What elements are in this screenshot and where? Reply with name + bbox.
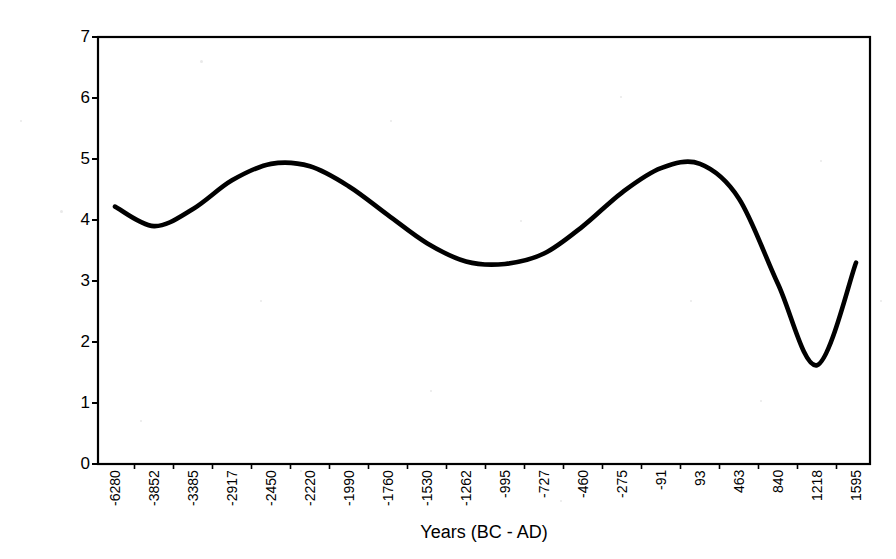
x-tick-label: -1990 [340,470,358,528]
x-tick-label: -275 [613,470,631,528]
plot-area-svg [0,0,896,559]
x-tick-label: -2220 [301,470,319,528]
x-axis-title: Years (BC - AD) [98,522,870,543]
x-tick-label: -91 [652,470,670,528]
x-tick-label: -2917 [223,470,241,528]
x-tick-label: -727 [535,470,553,528]
x-tick-label: 463 [730,470,748,528]
x-tick-label: -2450 [262,470,280,528]
x-tick-label: -1760 [379,470,397,528]
data-series-line [115,162,856,366]
plot-frame [98,37,870,464]
x-tick-label: -3385 [184,470,202,528]
x-tick-label: -6280 [106,470,124,528]
x-tick-label: 1218 [808,470,826,528]
x-tick-label: -1530 [418,470,436,528]
x-tick-label: 93 [691,470,709,528]
x-tick-label: -460 [574,470,592,528]
x-tick-label: 840 [769,470,787,528]
pollen-line-chart: Arboreal/NonArboreal Pollen % 76543210 -… [0,0,896,559]
x-tick-label: 1595 [847,470,865,528]
x-tick-label: -995 [496,470,514,528]
x-tick-label: -1262 [457,470,475,528]
x-tick-label: -3852 [145,470,163,528]
plot-border [98,37,870,464]
